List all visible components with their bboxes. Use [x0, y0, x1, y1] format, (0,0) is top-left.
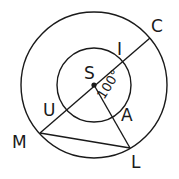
angle-label: 100° [94, 67, 123, 102]
label-i: I [117, 39, 122, 59]
label-a: A [121, 105, 133, 125]
label-s: S [84, 63, 95, 83]
center-point-s [91, 82, 96, 87]
label-c: C [151, 16, 163, 36]
label-l: L [131, 152, 141, 172]
geometry-diagram: S C I U M A L 100° [0, 0, 179, 179]
label-u: U [43, 100, 55, 120]
label-m: M [12, 132, 27, 152]
